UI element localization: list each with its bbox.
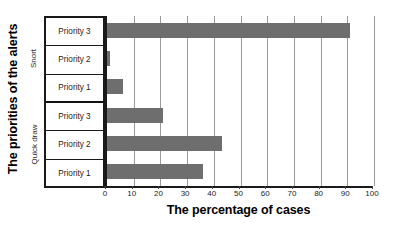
priority-label-cell: Priority 1 (46, 75, 103, 103)
x-tick-label: 40 (202, 189, 222, 198)
x-tick-label: 20 (148, 189, 168, 198)
group-label-quickdraw: Quick draw (26, 103, 42, 185)
gridline (160, 16, 161, 186)
plot-area (105, 16, 372, 186)
priority-label-table: Priority 3Priority 2Priority 1Priority 3… (44, 16, 105, 186)
x-axis-line (44, 186, 372, 188)
gridline (321, 16, 322, 186)
x-tick-label: 50 (229, 189, 249, 198)
bar (107, 164, 203, 179)
priority-label-cell: Priority 1 (46, 160, 103, 188)
gridline (374, 16, 375, 186)
priority-label-cell: Priority 3 (46, 103, 103, 131)
y-axis-title: The priorities of the alerts (6, 9, 20, 189)
x-axis-title: The percentage of cases (105, 203, 372, 217)
gridline (107, 16, 108, 186)
priority-label-text: Priority 1 (58, 169, 90, 178)
gridline (187, 16, 188, 186)
gridline (134, 16, 135, 186)
priority-label-cell: Priority 2 (46, 131, 103, 159)
priority-label-text: Priority 3 (58, 27, 90, 36)
x-tick-label: 70 (282, 189, 302, 198)
gridline (347, 16, 348, 186)
priority-label-cell: Priority 2 (46, 46, 103, 74)
priority-label-cell: Priority 3 (46, 18, 103, 46)
bar-chart: The priorities of the alerts Snort Quick… (0, 0, 401, 235)
bar (107, 23, 350, 38)
x-tick-label: 90 (335, 189, 355, 198)
group-label-snort: Snort (26, 19, 42, 97)
gridline (294, 16, 295, 186)
priority-label-text: Priority 3 (58, 112, 90, 121)
gridline (267, 16, 268, 186)
bar (107, 136, 222, 151)
group-label-snort-text: Snort (30, 48, 39, 67)
priority-label-text: Priority 2 (58, 55, 90, 64)
x-tick-label: 10 (122, 189, 142, 198)
bar (107, 108, 163, 123)
x-tick-label: 30 (175, 189, 195, 198)
x-tick-label: 60 (255, 189, 275, 198)
group-label-quickdraw-text: Quick draw (30, 124, 39, 164)
gridline (241, 16, 242, 186)
x-tick-label: 80 (309, 189, 329, 198)
priority-label-text: Priority 1 (58, 83, 90, 92)
gridline (214, 16, 215, 186)
x-tick-label: 100 (362, 189, 382, 198)
bar (107, 79, 123, 94)
priority-label-text: Priority 2 (58, 140, 90, 149)
x-tick-label: 0 (95, 189, 115, 198)
bar (107, 51, 110, 66)
